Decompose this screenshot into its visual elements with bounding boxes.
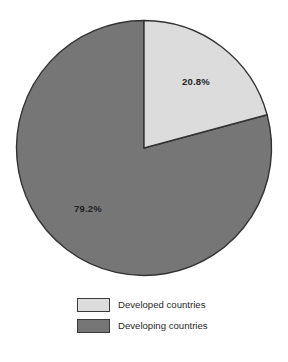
- legend-item-developing-countries[interactable]: Developing countries: [77, 315, 257, 336]
- legend-swatch-developed-countries: [77, 298, 110, 312]
- pie-chart-figure: 20.8% 79.2% Developed countries Developi…: [0, 0, 288, 362]
- pie-label-developed-countries: 20.8%: [182, 76, 210, 87]
- legend-label-developed-countries: Developed countries: [118, 300, 205, 310]
- pie-label-developing-countries: 79.2%: [74, 203, 102, 214]
- chart-legend: Developed countries Developing countries: [77, 294, 257, 336]
- legend-swatch-developing-countries: [77, 319, 110, 333]
- legend-item-developed-countries[interactable]: Developed countries: [77, 294, 257, 315]
- legend-label-developing-countries: Developing countries: [118, 321, 208, 331]
